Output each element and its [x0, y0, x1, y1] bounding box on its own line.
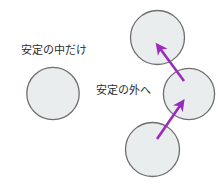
label-outside-stability: 安定の外へ — [96, 84, 151, 97]
static-circle — [27, 67, 79, 119]
moving-circle-bottom — [126, 123, 180, 177]
diagram-canvas: 安定の中だけ 安定の外へ — [0, 0, 224, 184]
moving-circle-top — [131, 11, 185, 65]
moving-circle-middle — [163, 68, 214, 119]
label-inside-stability: 安定の中だけ — [21, 44, 87, 57]
